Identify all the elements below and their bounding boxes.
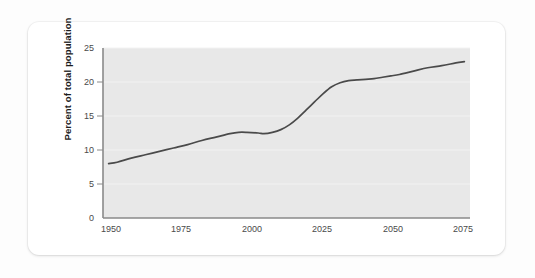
- page-root: Percent of total population 25 20 15 10 …: [0, 0, 535, 278]
- chart-card: Percent of total population 25 20 15 10 …: [28, 22, 505, 255]
- plot-area-background: [103, 48, 470, 218]
- y-axis-ticks: [97, 82, 103, 184]
- chart-plot: [28, 22, 505, 255]
- chart-container: Percent of total population 25 20 15 10 …: [28, 22, 505, 255]
